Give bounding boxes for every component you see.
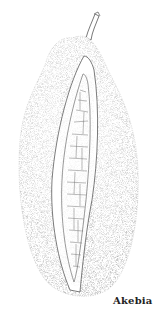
akebia-fruit-illustration — [0, 0, 161, 321]
caption-label: Akebia — [113, 295, 153, 306]
fruit-pulp — [60, 74, 94, 286]
stem — [86, 12, 100, 40]
